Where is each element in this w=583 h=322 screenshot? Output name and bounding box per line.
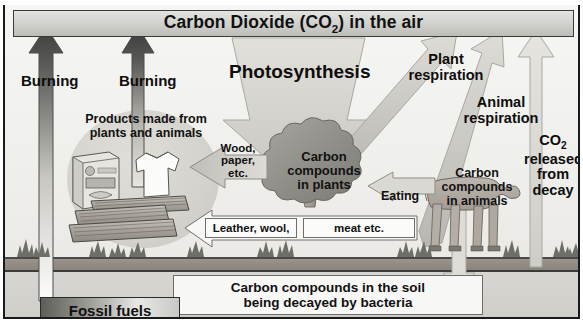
co2-banner-text-before: Carbon Dioxide (CO [164, 12, 332, 32]
co2-banner-text-after: ) in the air [338, 12, 423, 32]
eating-text: Eating [381, 189, 419, 203]
top-white-strip [0, 0, 583, 5]
carbon-plants-line-2: compounds [271, 164, 377, 178]
animal-respiration-line-2: respiration [449, 111, 553, 127]
plant-respiration-line-2: respiration [398, 68, 494, 84]
label-plant-respiration: Plant respiration [398, 52, 494, 83]
carbon-cycle-diagram: Carbon Dioxide (CO2) in the air Burning … [0, 0, 583, 322]
label-wood-paper-etc: Wood, paper, etc. [211, 142, 265, 179]
label-meat-etc: meat etc. [303, 218, 415, 238]
wood-line-1: Wood, [211, 142, 265, 154]
soil-line-2: being decayed by bacteria [244, 295, 413, 310]
co2-decay-line-3: from [524, 167, 580, 183]
diagram-frame: Carbon Dioxide (CO2) in the air Burning … [3, 3, 580, 319]
co2-decay-line-4: decay [524, 183, 580, 199]
co2-air-banner-label: Carbon Dioxide (CO2) in the air [164, 12, 423, 35]
meat-etc-text: meat etc. [334, 222, 384, 234]
leather-wool-text: Leather, wool, [213, 222, 290, 234]
label-burning-fossil-fuels: Burning [21, 73, 79, 89]
wood-line-3: etc. [211, 167, 265, 179]
carbon-plants-line-1: Carbon [271, 150, 377, 164]
label-leather-wool: Leather, wool, [205, 218, 297, 238]
soil-line-1: Carbon compounds in the soil [231, 280, 425, 295]
co2-decay-subscript: 2 [561, 140, 567, 151]
label-carbon-compounds-in-plants: Carbon compounds in plants [271, 150, 377, 192]
animal-respiration-line-1: Animal [449, 95, 553, 111]
plant-respiration-line-1: Plant [398, 52, 494, 68]
co2-decay-line-1: CO2 [524, 133, 580, 152]
label-fossil-fuels: Fossil fuels [40, 297, 180, 319]
label-carbon-compounds-in-soil: Carbon compounds in the soil being decay… [173, 275, 483, 315]
carbon-animals-line-1: Carbon [423, 167, 531, 181]
label-products-made-from: Products made from plants and animals [67, 113, 225, 141]
label-burning-products: Burning [119, 73, 177, 89]
carbon-plants-line-3: in plants [271, 178, 377, 192]
label-carbon-compounds-in-animals: Carbon compounds in animals [423, 167, 531, 208]
co2-decay-text: CO [539, 132, 561, 148]
co2-air-banner: Carbon Dioxide (CO2) in the air [13, 10, 574, 37]
label-eating: Eating [381, 186, 419, 204]
products-line-2: plants and animals [67, 127, 225, 141]
label-photosynthesis: Photosynthesis [229, 62, 370, 82]
label-animal-respiration: Animal respiration [449, 95, 553, 126]
co2-decay-line-2: released [524, 152, 580, 168]
carbon-animals-line-2: compounds [423, 181, 531, 195]
wood-line-2: paper, [211, 154, 265, 166]
carbon-animals-line-3: in animals [423, 195, 531, 209]
label-co2-released-from-decay: CO2 released from decay [524, 133, 580, 198]
products-line-1: Products made from [67, 113, 225, 127]
fossil-fuels-text: Fossil fuels [69, 302, 152, 319]
